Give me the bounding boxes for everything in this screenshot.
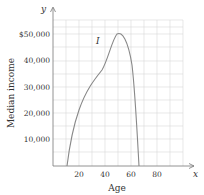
axes <box>51 7 195 169</box>
x-axis-label: Age <box>107 183 126 193</box>
svg-text:20,000: 20,000 <box>24 109 50 118</box>
svg-text:60: 60 <box>126 170 136 179</box>
curve-label: I <box>95 36 100 46</box>
svg-text:40: 40 <box>100 170 110 179</box>
svg-text:40,000: 40,000 <box>24 56 50 65</box>
y-axis-variable: y <box>40 4 47 14</box>
x-tick-labels: 20 40 60 80 <box>74 170 162 179</box>
grid <box>53 20 183 166</box>
svg-text:30,000: 30,000 <box>24 83 50 92</box>
x-axis-variable: x <box>193 169 198 179</box>
y-axis-label: Median income <box>6 58 16 128</box>
svg-text:20: 20 <box>74 170 84 179</box>
svg-text:80: 80 <box>152 170 162 179</box>
y-tick-labels: $50,000 40,000 30,000 20,000 10,000 <box>19 30 50 144</box>
svg-text:$50,000: $50,000 <box>19 30 50 39</box>
svg-text:10,000: 10,000 <box>24 135 50 144</box>
chart: y x $50,000 40,000 30,000 20,000 10,000 … <box>0 0 204 195</box>
